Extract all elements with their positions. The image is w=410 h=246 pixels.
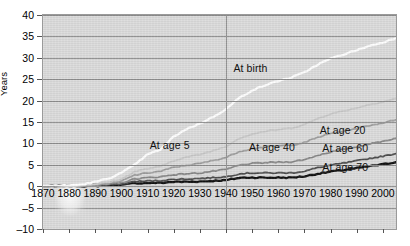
y-axis-tick-label: 20 xyxy=(0,96,34,107)
gridline-horizontal xyxy=(43,58,396,59)
x-axis-tick-label: 2000 xyxy=(369,188,397,199)
x-axis-tick-label: 1940 xyxy=(212,188,240,199)
x-axis-tick-mark xyxy=(357,229,358,233)
annotation-at-age-20: At age 20 xyxy=(320,125,366,136)
x-axis-tick-label: 1980 xyxy=(317,188,345,199)
y-axis-tick-label: 10 xyxy=(0,138,34,149)
x-axis-tick-mark xyxy=(383,229,384,233)
x-axis-tick-mark xyxy=(148,229,149,233)
y-axis-tick-mark xyxy=(37,79,42,80)
y-axis-tick-mark xyxy=(37,101,42,102)
x-axis-tick-label: 1900 xyxy=(107,188,135,199)
gridline-horizontal xyxy=(43,208,396,209)
x-axis-tick-label: 1890 xyxy=(81,188,109,199)
x-axis-tick-mark xyxy=(69,229,70,233)
annotation-at-age-70: At age 70 xyxy=(322,162,368,173)
annotation-at-birth: At birth xyxy=(233,63,267,74)
y-axis-tick-mark xyxy=(37,58,42,59)
annotation-at-age-40: At age 40 xyxy=(249,142,295,153)
x-axis-tick-mark xyxy=(121,229,122,233)
x-axis-tick-mark xyxy=(252,229,253,233)
annotation-at-age-5: At age 5 xyxy=(150,140,190,151)
x-axis-tick-label: 1990 xyxy=(343,188,371,199)
y-axis-tick-label: –10 xyxy=(0,224,34,235)
y-axis-tick-mark xyxy=(37,36,42,37)
x-axis-tick-mark xyxy=(174,229,175,233)
y-axis-tick-label: –5 xyxy=(0,203,34,214)
gridline-horizontal xyxy=(43,79,396,80)
x-axis-tick-mark xyxy=(200,229,201,233)
x-axis-tick-mark xyxy=(43,229,44,233)
y-axis-tick-mark xyxy=(37,122,42,123)
x-axis-tick-label: 1950 xyxy=(238,188,266,199)
chart-figure: At birthAt age 5At age 40At age 20At age… xyxy=(0,0,410,246)
y-axis-tick-mark xyxy=(37,15,42,16)
y-axis-tick-mark xyxy=(37,229,42,230)
x-axis-tick-mark xyxy=(226,229,227,233)
x-axis-tick-label: 1930 xyxy=(186,188,214,199)
x-axis-tick-mark xyxy=(278,229,279,233)
gridline-horizontal xyxy=(43,101,396,102)
gridline-horizontal xyxy=(43,122,396,123)
y-axis-tick-mark xyxy=(37,165,42,166)
gridline-horizontal xyxy=(43,15,396,16)
x-axis-tick-mark xyxy=(304,229,305,233)
y-axis-tick-label: 30 xyxy=(0,53,34,64)
y-axis-tick-label: 35 xyxy=(0,31,34,42)
x-axis-tick-label: 1910 xyxy=(134,188,162,199)
annotation-at-age-60: At age 60 xyxy=(322,143,368,154)
x-axis-tick-label: 1870 xyxy=(29,188,57,199)
y-axis-tick-mark xyxy=(37,143,42,144)
y-axis-tick-label: 15 xyxy=(0,117,34,128)
y-axis-label: Years xyxy=(0,72,9,96)
x-axis-tick-label: 1970 xyxy=(290,188,318,199)
x-axis-tick-label: 1920 xyxy=(160,188,188,199)
x-axis-tick-mark xyxy=(95,229,96,233)
y-axis-tick-label: 40 xyxy=(0,10,34,21)
x-axis-tick-mark xyxy=(331,229,332,233)
gridline-horizontal xyxy=(43,36,396,37)
x-axis-tick-label: 1960 xyxy=(264,188,292,199)
x-axis-tick-label: 1880 xyxy=(55,188,83,199)
y-axis-tick-mark xyxy=(37,208,42,209)
y-axis-tick-label: 5 xyxy=(0,160,34,171)
